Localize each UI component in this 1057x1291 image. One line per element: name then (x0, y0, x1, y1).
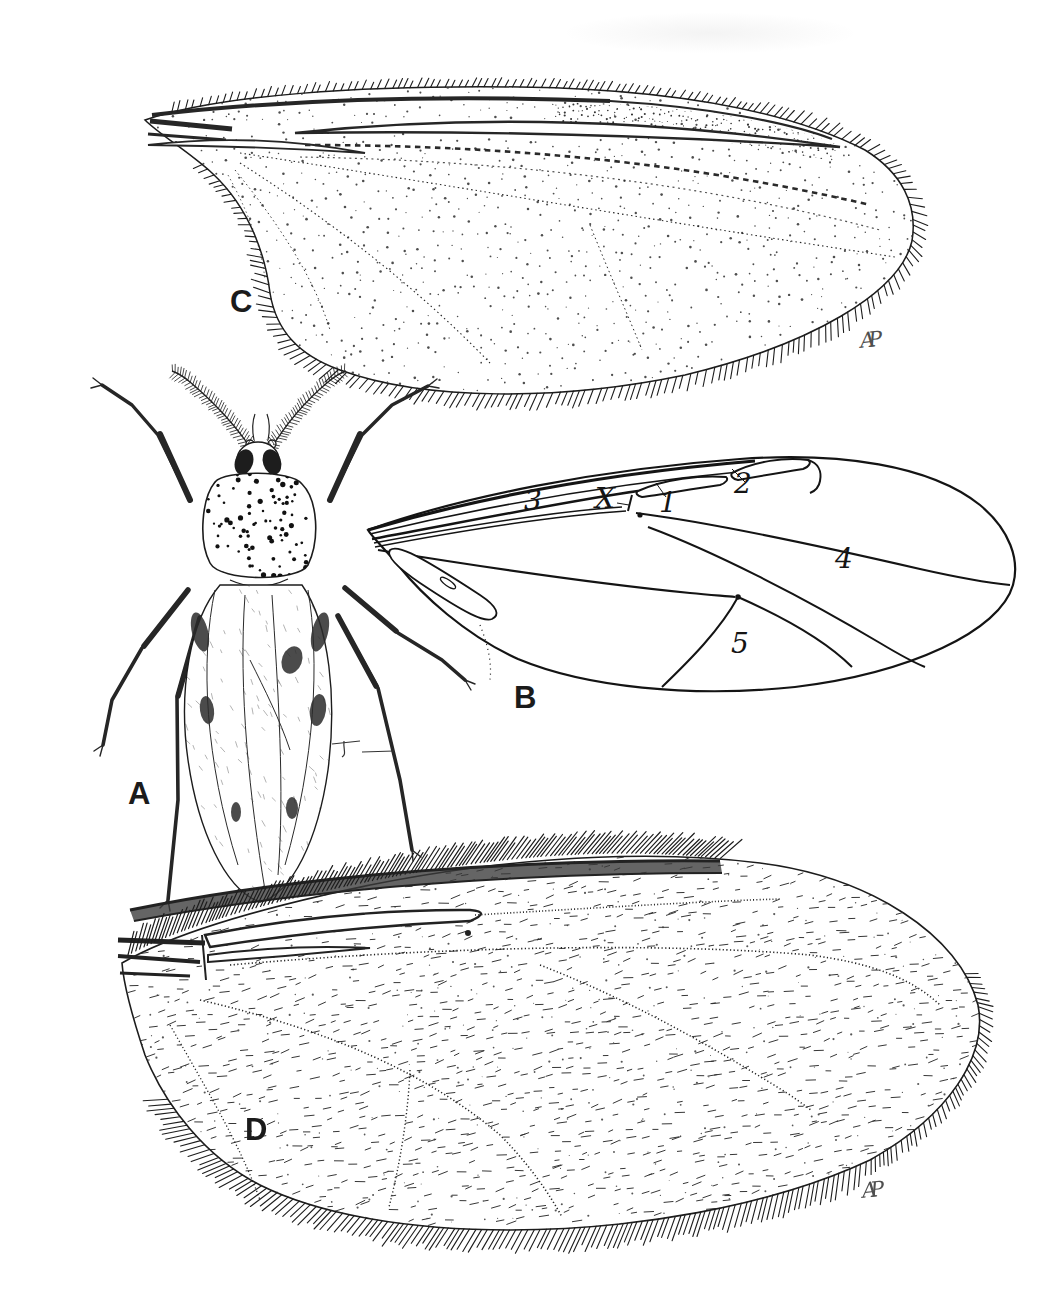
panel-b-label: B (514, 682, 537, 713)
panel-d-label: D (245, 1114, 268, 1145)
wing-b-cell1-label: 1 (659, 489, 677, 517)
basal-sclerite (389, 548, 496, 619)
wing-b-crossvein-label: X (595, 485, 615, 513)
wing-d-outline (122, 856, 980, 1230)
wing-b-cell3-label: 3 (524, 487, 542, 515)
wing-d-veins (118, 861, 940, 1217)
wing-b-veins (368, 459, 1010, 687)
panel-a-label: A (128, 778, 151, 809)
wing-c-veins (148, 98, 895, 363)
panel-c-label: C (230, 286, 253, 317)
scale-mark (332, 741, 394, 757)
panel-b-wing-diagram (360, 435, 1025, 705)
panel-d-wing-illustration (110, 815, 1000, 1235)
illustration-plate: C A B D 3 X 1 2 4 5 AP AP (0, 0, 1057, 1291)
wing-d-macrotrichia-layer (127, 847, 992, 1231)
crossvein-x (628, 495, 632, 511)
wing-b-cell4-label: 4 (835, 545, 853, 573)
wing-b-cell5-label: 5 (731, 630, 749, 658)
wing-d-marginal-fringe (143, 974, 993, 1254)
anal-fold-dotted (480, 625, 491, 680)
artist-monogram-d: AP (861, 1179, 879, 1202)
artist-monogram-c: AP (859, 329, 877, 352)
wing-b-cell2-label: 2 (734, 470, 752, 498)
panel-c-wing-illustration (90, 45, 930, 385)
first-radial-cell (637, 477, 728, 497)
antenna-plumes (170, 364, 348, 452)
